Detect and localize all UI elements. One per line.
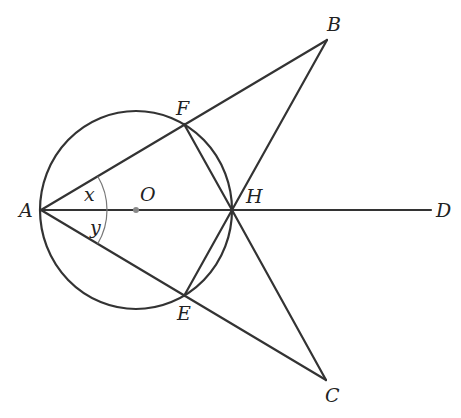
label-angle-y: y xyxy=(89,216,101,238)
center-point-o xyxy=(133,207,139,213)
label-b: B xyxy=(326,13,341,35)
label-e: E xyxy=(176,302,191,324)
label-d: D xyxy=(435,199,451,221)
label-f: F xyxy=(175,97,190,119)
label-o: O xyxy=(140,183,156,205)
label-angle-x: x xyxy=(84,183,95,205)
angle-x-arc xyxy=(98,176,107,210)
label-h: H xyxy=(245,185,263,207)
label-c: C xyxy=(325,384,340,406)
line-eh xyxy=(184,210,232,296)
label-a: A xyxy=(17,199,33,221)
line-ch xyxy=(232,210,326,380)
geometry-diagram: A O H D B C F E x y xyxy=(0,0,461,418)
line-fh xyxy=(184,124,232,210)
